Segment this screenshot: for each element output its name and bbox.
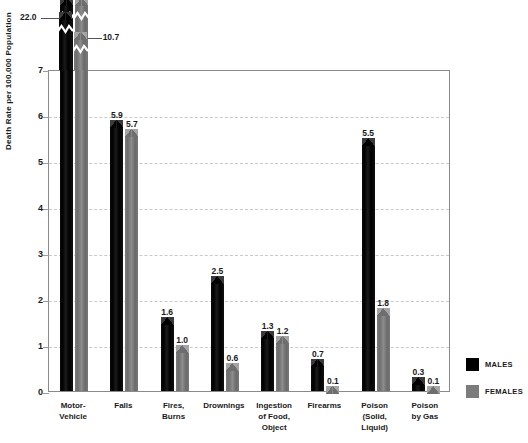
axis-break-zigzag — [58, 23, 73, 35]
bar-value-label: 0.1 — [316, 376, 350, 386]
y-axis-tick-label: 2 — [25, 295, 43, 305]
y-axis-title: Death Rate per 100,000 Population — [4, 0, 13, 150]
bar-cap — [211, 276, 224, 284]
x-axis-label-line: Liquid) — [343, 422, 407, 433]
legend-swatch-females — [466, 385, 479, 398]
gridline — [49, 209, 449, 210]
bar-body — [362, 144, 375, 391]
bar-cap — [161, 317, 174, 325]
legend: MALES FEMALES — [466, 358, 523, 412]
legend-label-males: MALES — [485, 360, 513, 369]
bar-females — [125, 129, 138, 391]
bar-males — [261, 331, 274, 391]
x-axis-label-line: Burns — [142, 411, 206, 422]
bar-value-label: 0.7 — [301, 349, 335, 359]
bar-body — [161, 323, 174, 391]
bar-value-label: 0.6 — [215, 353, 249, 363]
bar-body — [211, 282, 224, 391]
y-axis-tick-label: 6 — [25, 111, 43, 121]
plot-area: 01234567 5.95.71.61.02.50.61.31.20.70.15… — [48, 70, 450, 392]
y-axis-tick — [43, 393, 49, 394]
axis-break-zigzag — [74, 10, 89, 22]
bar-cap — [74, 32, 87, 40]
y-axis-tick-label: 7 — [25, 65, 43, 75]
bar-females — [276, 336, 289, 391]
x-axis-label-line: Poison — [393, 400, 457, 411]
bar-value-label: 0.1 — [416, 376, 450, 386]
y-axis-tick-label: 0 — [25, 387, 43, 397]
gridline — [49, 163, 449, 164]
legend-label-females: FEMALES — [485, 387, 523, 396]
bar-chart: Death Rate per 100,000 Population 22.010… — [0, 0, 528, 443]
x-axis-label-line: of Food, — [242, 411, 306, 422]
y-axis-tick — [43, 163, 49, 164]
bar-cap — [362, 138, 375, 146]
bar-value-label: 2.5 — [200, 266, 234, 276]
y-axis-tick-label: 1 — [25, 341, 43, 351]
bar-body — [125, 135, 138, 391]
bar-cap — [311, 359, 324, 367]
y-axis-tick-label: 4 — [25, 203, 43, 213]
bar-males — [211, 276, 224, 391]
bar-body — [377, 314, 390, 391]
bar-females — [377, 308, 390, 391]
bar-males — [362, 138, 375, 391]
bar-cap — [60, 0, 73, 6]
bar-cap — [75, 0, 88, 6]
bar-females — [226, 363, 239, 391]
bar-value-label: 1.6 — [150, 307, 184, 317]
bar-value-label: 1.8 — [366, 298, 400, 308]
axis-break-leader-females — [88, 38, 102, 39]
bar-body — [110, 126, 123, 391]
axis-break-leader-males — [41, 18, 60, 19]
bar-body — [261, 337, 274, 391]
bar-females — [427, 386, 440, 391]
bar-value-label: 5.7 — [115, 119, 149, 129]
bar-cap — [176, 345, 189, 353]
legend-swatch-males — [466, 358, 479, 371]
bar-males-broken-extension — [59, 12, 72, 70]
axis-break-zigzag — [73, 43, 88, 55]
bar-cap — [377, 308, 390, 316]
x-axis-label-line: by Gas — [393, 411, 457, 422]
y-axis-tick — [43, 71, 49, 72]
legend-item-males: MALES — [466, 358, 523, 371]
bar-cap — [276, 336, 289, 344]
bar-females-broken-extension — [74, 32, 87, 70]
bar-cap — [326, 386, 339, 394]
legend-item-females: FEMALES — [466, 385, 523, 398]
bar-cap — [226, 363, 239, 371]
y-axis-tick — [43, 301, 49, 302]
bar-body — [226, 369, 239, 391]
bar-males — [161, 317, 174, 391]
y-axis-tick-label: 5 — [25, 157, 43, 167]
y-axis-tick — [43, 209, 49, 210]
x-axis-label-line: Vehicle — [41, 411, 105, 422]
y-axis-tick — [43, 255, 49, 256]
bar-cap — [125, 129, 138, 137]
bar-females — [326, 386, 339, 391]
bar-cap — [59, 12, 72, 20]
gridline — [49, 255, 449, 256]
y-axis-tick — [43, 117, 49, 118]
y-axis-tick — [43, 347, 49, 348]
bar-value-label: 1.0 — [165, 335, 199, 345]
x-axis-label-line: Object — [242, 422, 306, 433]
bar-males — [110, 120, 123, 391]
y-axis-tick-label: 3 — [25, 249, 43, 259]
axis-break-value-females: 10.7 — [103, 32, 120, 42]
bar-body — [276, 342, 289, 391]
bar-value-label: 1.2 — [266, 326, 300, 336]
bar-cap — [427, 386, 440, 394]
bar-body — [176, 351, 189, 391]
bar-females — [176, 345, 189, 391]
x-axis-label: Poisonby Gas — [393, 400, 457, 422]
bar-value-label: 5.5 — [351, 128, 385, 138]
axis-break-value-males: 22.0 — [20, 12, 37, 22]
